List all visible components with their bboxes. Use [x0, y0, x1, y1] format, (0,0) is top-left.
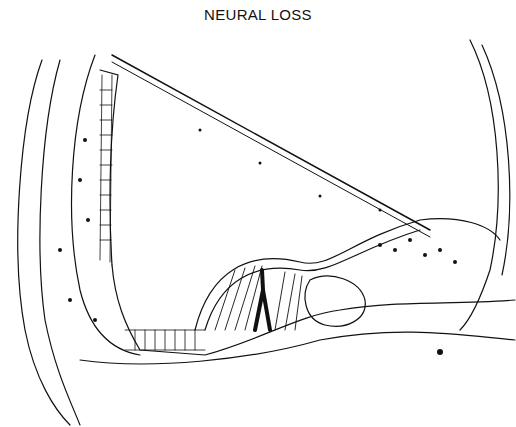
- cochlear-illustration: [0, 0, 516, 427]
- bony-wall-outer: [18, 60, 70, 425]
- tectorial-membrane: [195, 219, 500, 330]
